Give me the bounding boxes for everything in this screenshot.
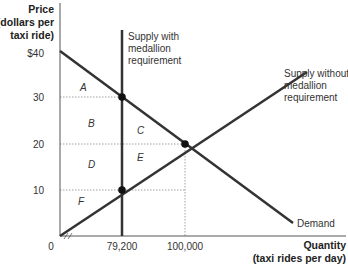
y-axis-title-line1: Price	[28, 3, 54, 15]
region-a: A	[79, 82, 87, 93]
x-tick-100000: 100,000	[167, 241, 204, 252]
chart: $40 30 20 10 0 79,200 100,000 Price (dol…	[0, 0, 348, 265]
x-axis-title-line2: (taxi rides per day)	[253, 252, 346, 264]
x-axis-title-line1: Quantity	[303, 239, 346, 251]
supply-without-label-line2: medallion	[284, 80, 327, 91]
y-axis-title-line2: (dollars per	[0, 16, 54, 28]
region-c: C	[137, 125, 145, 136]
point-equilibrium	[181, 140, 189, 148]
y-tick-40: $40	[27, 48, 44, 59]
region-e: E	[137, 152, 144, 163]
region-d: D	[88, 159, 95, 170]
x-tick-79200: 79,200	[107, 241, 138, 252]
region-f: F	[78, 196, 85, 207]
point-79200-10	[118, 186, 126, 194]
supply-with-label-line1: Supply with	[128, 31, 179, 42]
y-axis-title-line3: taxi ride)	[10, 29, 54, 41]
y-tick-20: 20	[33, 139, 45, 150]
supply-without-label-line1: Supply without	[284, 68, 348, 79]
y-tick-30: 30	[33, 92, 45, 103]
region-b: B	[88, 118, 95, 129]
supply-with-label-line3: requirement	[128, 55, 182, 66]
origin-label: 0	[48, 241, 54, 252]
y-tick-10: 10	[33, 185, 45, 196]
supply-with-label-line2: medallion	[128, 43, 171, 54]
supply-without-label-line3: requirement	[284, 92, 338, 103]
point-79200-30	[118, 93, 126, 101]
demand-curve	[60, 51, 293, 223]
demand-label: Demand	[297, 218, 335, 229]
